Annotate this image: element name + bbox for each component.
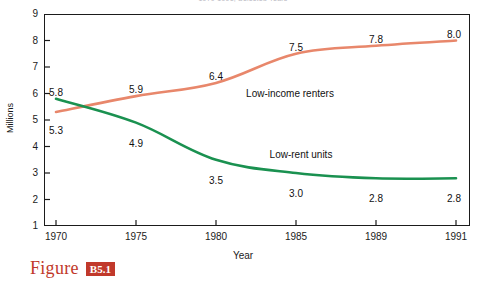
y-tick-label: 3: [16, 168, 38, 178]
x-tick-label: 1980: [193, 232, 239, 242]
y-tick-label: 2: [16, 195, 38, 205]
data-point-label: 3.5: [204, 176, 228, 186]
data-point-label: 7.5: [284, 43, 308, 53]
x-tick-label: 1991: [433, 232, 479, 242]
data-point-label: 2.8: [364, 194, 388, 204]
y-tick-label: 4: [16, 142, 38, 152]
data-point-label: 8.0: [442, 30, 466, 40]
x-tick-label: 1975: [113, 232, 159, 242]
series-label-low-rent-units: Low-rent units: [245, 150, 357, 160]
y-tick-label: 8: [16, 36, 38, 46]
data-point-label: 3.0: [284, 189, 308, 199]
data-point-label: 6.4: [204, 72, 228, 82]
y-tick-label: 5: [16, 115, 38, 125]
data-point-label: 5.8: [44, 88, 68, 98]
x-tick-label: 1970: [33, 232, 79, 242]
y-axis-title: Millions: [5, 90, 15, 146]
y-tick-label: 6: [16, 89, 38, 99]
data-point-label: 5.3: [44, 126, 68, 136]
data-point-label: 2.8: [442, 194, 466, 204]
data-point-label: 4.9: [124, 139, 148, 149]
plot-lines: [44, 14, 470, 226]
data-point-label: 5.9: [124, 85, 148, 95]
figure-b5-1: Millions Year 987654321 1970197519801985…: [0, 0, 486, 285]
series-label-low-income-renters: Low-income renters: [225, 89, 355, 99]
caption-number-badge: B5.1: [86, 262, 115, 276]
y-tick-label: 1: [16, 221, 38, 231]
figure-caption: Figure B5.1: [30, 258, 115, 279]
data-point-label: 7.8: [364, 35, 388, 45]
y-tick-label: 9: [16, 9, 38, 19]
y-tick-label: 7: [16, 62, 38, 72]
x-tick-label: 1985: [273, 232, 319, 242]
x-tick-label: 1989: [353, 232, 399, 242]
caption-word: Figure: [30, 258, 79, 279]
